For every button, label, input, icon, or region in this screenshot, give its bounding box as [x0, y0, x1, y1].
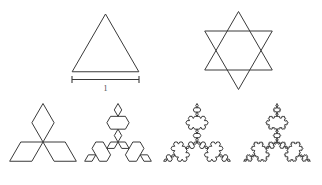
- equilateral-triangle-outline: [72, 14, 139, 72]
- hexagram-overlapping-triangles: [205, 12, 273, 90]
- koch-snowflake-figure: 1: [0, 0, 322, 185]
- koch-snowflake-iteration-4: [244, 104, 311, 162]
- measurement-annotation: 1: [72, 76, 139, 93]
- figure-canvas: 1: [0, 0, 322, 185]
- koch-snowflake-iteration-1-outline: [10, 104, 77, 162]
- koch-snowflake-iteration-3-outline: [164, 104, 231, 162]
- koch-snowflake-iteration-1: [10, 104, 77, 162]
- koch-snowflake-iteration-2: [85, 104, 152, 162]
- equilateral-triangle: [72, 14, 139, 72]
- hexagram-overlapping-triangles-downward-triangle: [205, 31, 273, 90]
- koch-snowflake-iteration-3: [164, 104, 231, 162]
- unit-length-label: 1: [104, 84, 108, 93]
- koch-snowflake-iteration-4-outline: [244, 104, 311, 162]
- shape-layer: [10, 12, 311, 162]
- koch-snowflake-iteration-2-outline: [85, 104, 152, 162]
- hexagram-overlapping-triangles-upward-triangle: [205, 12, 273, 71]
